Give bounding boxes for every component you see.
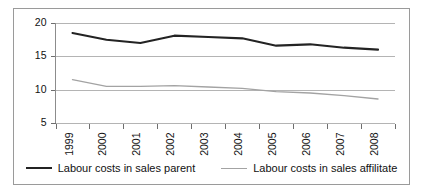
series-line-labour-costs-in-sales-parent xyxy=(72,33,378,50)
x-axis-labels-group: 1999200020012002200320042005200620072008 xyxy=(63,132,381,156)
y-tick-label-20: 20 xyxy=(35,16,47,28)
y-axis-ticks-group xyxy=(51,24,56,124)
x-tick-label-1999: 1999 xyxy=(63,132,75,156)
y-tick-label-10: 10 xyxy=(35,83,47,95)
x-tick-label-2008: 2008 xyxy=(368,132,380,156)
legend-label-affiliate: Labour costs in sales affilitate xyxy=(253,162,397,174)
legend-swatch-affiliate-icon xyxy=(221,168,247,169)
y-axis-labels-group: 5101520 xyxy=(35,16,47,128)
x-tick-label-2007: 2007 xyxy=(334,132,346,156)
legend-entry-affiliate: Labour costs in sales affilitate xyxy=(221,162,397,174)
legend-label-parent: Labour costs in sales parent xyxy=(58,162,196,174)
legend-swatch-parent-icon xyxy=(26,167,52,169)
legend-entry-parent: Labour costs in sales parent xyxy=(26,162,196,174)
y-tick-label-5: 5 xyxy=(41,116,47,128)
x-tick-label-2001: 2001 xyxy=(130,132,142,156)
x-tick-label-2000: 2000 xyxy=(96,132,108,156)
chart-legend: Labour costs in sales parent Labour cost… xyxy=(14,160,409,176)
x-tick-label-2002: 2002 xyxy=(164,132,176,156)
x-tick-label-2003: 2003 xyxy=(198,132,210,156)
x-axis-ticks-group xyxy=(57,124,396,129)
chart-figure: 5101520 19992000200120022003200420052006… xyxy=(13,8,410,185)
x-tick-label-2006: 2006 xyxy=(300,132,312,156)
series-line-labour-costs-in-sales-affilitate xyxy=(72,80,378,99)
line-chart: 5101520 19992000200120022003200420052006… xyxy=(14,9,409,161)
x-tick-label-2004: 2004 xyxy=(232,132,244,156)
y-tick-label-15: 15 xyxy=(35,49,47,61)
x-tick-label-2005: 2005 xyxy=(266,132,278,156)
